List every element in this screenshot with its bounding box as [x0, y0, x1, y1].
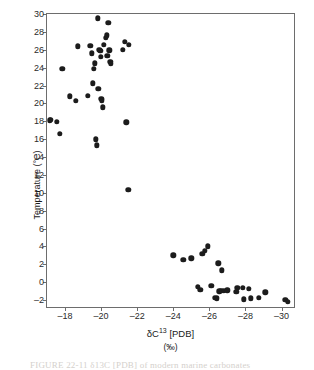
x-axis-units: (‰) — [46, 342, 295, 352]
figure-container: Temperature (°C) 30282624222018161412108… — [0, 0, 314, 370]
y-tick-label: 14 — [34, 153, 44, 162]
y-tick-label: 16 — [34, 135, 44, 144]
data-point — [93, 136, 98, 141]
data-point — [208, 283, 213, 288]
data-point — [263, 290, 268, 295]
data-point — [105, 53, 110, 58]
data-point — [219, 267, 224, 272]
x-axis-title-tail: [PDB] — [167, 328, 194, 339]
data-point — [54, 119, 59, 124]
data-point — [94, 143, 99, 148]
x-axis-title-superscript: 13 — [159, 327, 167, 334]
y-tick-label: 4 — [39, 242, 44, 251]
data-point — [225, 288, 230, 293]
data-point — [108, 61, 113, 66]
data-point — [234, 289, 239, 294]
data-point — [120, 47, 125, 52]
data-point — [107, 48, 112, 53]
y-tick-label: –2 — [34, 296, 44, 305]
data-point — [88, 43, 93, 48]
data-point — [99, 98, 104, 103]
scatter-points — [47, 14, 294, 307]
y-tick-label: 6 — [39, 224, 44, 233]
figure-caption: FIGURE 22-11 δ13C [PDB] of modern marine… — [30, 360, 310, 370]
data-point — [92, 60, 97, 65]
x-tick-label: –22 — [130, 312, 145, 321]
data-point — [67, 94, 72, 99]
data-point — [95, 16, 100, 21]
data-point — [256, 295, 261, 300]
data-point — [214, 296, 219, 301]
x-tick-label: –28 — [238, 312, 253, 321]
data-point — [125, 187, 130, 192]
y-tick-label: 12 — [34, 170, 44, 179]
x-tick-label: –26 — [202, 312, 217, 321]
y-tick-label: 20 — [34, 99, 44, 108]
data-point — [85, 93, 90, 98]
x-tick-label: –20 — [94, 312, 109, 321]
y-tick-label: 24 — [34, 63, 44, 72]
data-point — [90, 81, 95, 86]
data-point — [106, 20, 111, 25]
data-point — [126, 42, 131, 47]
data-point — [48, 117, 53, 122]
y-tick-label: 22 — [34, 81, 44, 90]
data-point — [240, 285, 245, 290]
x-tick-label: –24 — [166, 312, 181, 321]
data-point — [98, 54, 103, 59]
y-tick-label: 2 — [39, 260, 44, 269]
y-tick-label: 26 — [34, 45, 44, 54]
data-point — [89, 51, 94, 56]
data-point — [75, 43, 80, 48]
data-point — [285, 299, 290, 304]
data-point — [57, 131, 62, 136]
data-point — [205, 244, 210, 249]
y-tick-label: 30 — [34, 10, 44, 19]
y-tick-label: 18 — [34, 117, 44, 126]
data-point — [98, 48, 103, 53]
data-point — [241, 296, 246, 301]
data-point — [246, 286, 251, 291]
data-point — [96, 86, 101, 91]
data-point — [101, 42, 106, 47]
x-axis-title-symbol: δC — [147, 328, 159, 339]
y-tick-label: 28 — [34, 27, 44, 36]
data-point — [181, 257, 186, 262]
y-tick-label: 0 — [39, 278, 44, 287]
y-tick-label: 8 — [39, 206, 44, 215]
data-point — [100, 105, 105, 110]
data-point — [189, 256, 194, 261]
data-point — [91, 66, 96, 71]
data-point — [124, 119, 129, 124]
data-point — [216, 261, 221, 266]
plot-area: 302826242220181614121086420–2 –18–20–22–… — [46, 13, 295, 308]
data-point — [60, 66, 65, 71]
x-tick-label: –18 — [58, 312, 73, 321]
x-axis-title: δC13 [PDB] — [46, 328, 295, 339]
data-point — [171, 253, 176, 258]
y-tick-label: 10 — [34, 188, 44, 197]
data-point — [202, 248, 207, 253]
data-point — [104, 33, 109, 38]
data-point — [198, 287, 203, 292]
data-point — [248, 296, 253, 301]
x-tick-label: –30 — [274, 312, 289, 321]
data-point — [73, 98, 78, 103]
